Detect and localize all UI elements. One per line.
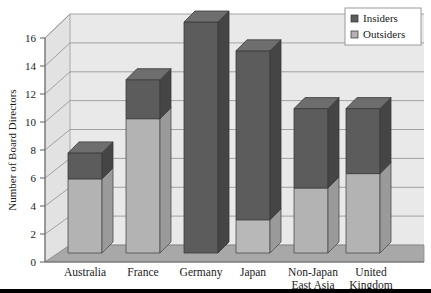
bar-outsiders-side[interactable] — [328, 177, 339, 253]
y-tick-label: 16 — [25, 32, 37, 44]
bar-chart-canvas: 16 14 12 10 8 6 4 2 0 Number of Board Di… — [0, 0, 431, 293]
bar-insiders-front[interactable] — [184, 22, 218, 253]
y-axis-ticks — [40, 38, 45, 262]
legend-label-outsiders: Outsiders — [363, 28, 405, 40]
bar-outsiders-front[interactable] — [126, 119, 160, 253]
bar-insiders-front[interactable] — [126, 80, 160, 119]
y-tick-label: 14 — [25, 60, 37, 72]
bar-insiders-front[interactable] — [294, 109, 328, 188]
bar-insiders-front[interactable] — [236, 51, 270, 220]
y-tick-label: 6 — [31, 172, 37, 184]
category-label-germany: Germany — [180, 266, 223, 279]
legend-swatch-insiders-icon — [351, 15, 358, 22]
bar-outsiders-side[interactable] — [380, 163, 391, 253]
bar-insiders-side[interactable] — [218, 11, 229, 253]
bar-outsiders-front[interactable] — [236, 220, 270, 253]
legend[interactable]: Insiders Outsiders — [345, 8, 421, 45]
bar-group-japan[interactable] — [236, 40, 281, 253]
y-tick-label: 12 — [25, 88, 36, 100]
category-label-australia: Australia — [64, 266, 106, 278]
y-tick-label: 0 — [31, 256, 37, 268]
category-label-japan: Japan — [240, 266, 266, 279]
chart-figure: 16 14 12 10 8 6 4 2 0 Number of Board Di… — [0, 0, 431, 293]
y-axis-tick-labels: 16 14 12 10 8 6 4 2 0 — [25, 32, 37, 268]
category-label-non-japan-line1: Non-Japan — [288, 266, 338, 279]
bar-group-australia[interactable] — [68, 142, 113, 253]
bar-group-france[interactable] — [126, 69, 171, 253]
legend-swatch-outsiders-icon — [351, 31, 358, 38]
bottom-divider-rule — [0, 289, 431, 293]
category-label-united-kingdom-line1: United — [355, 266, 387, 278]
bar-insiders-side[interactable] — [270, 40, 281, 220]
bar-group-germany[interactable] — [184, 11, 229, 253]
y-tick-label: 10 — [25, 116, 37, 128]
bar-outsiders-front[interactable] — [294, 188, 328, 253]
y-tick-label: 4 — [31, 200, 37, 212]
y-tick-label: 8 — [31, 144, 37, 156]
bar-group-non-japan-east-asia[interactable] — [294, 98, 339, 253]
legend-label-insiders: Insiders — [363, 12, 398, 24]
y-axis-title: Number of Board Directors — [6, 89, 18, 210]
bar-outsiders-side[interactable] — [160, 108, 171, 253]
bar-outsiders-front[interactable] — [346, 174, 380, 253]
y-tick-label: 2 — [31, 228, 37, 240]
bar-insiders-side[interactable] — [328, 98, 339, 188]
category-label-france: France — [127, 266, 158, 278]
bar-insiders-front[interactable] — [346, 109, 380, 174]
bar-group-united-kingdom[interactable] — [346, 98, 391, 253]
bar-outsiders-front[interactable] — [68, 179, 102, 253]
bar-insiders-side[interactable] — [380, 98, 391, 174]
bar-outsiders-side[interactable] — [102, 168, 113, 253]
bar-insiders-front[interactable] — [68, 153, 102, 179]
